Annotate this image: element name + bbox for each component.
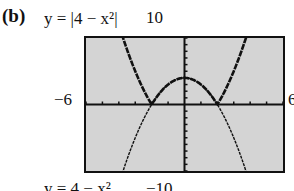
ymin-label: −10 [146,180,173,191]
plot-area [86,38,285,173]
xmin-label: −6 [54,91,72,108]
top-equation-label: y = |4 − x²| [44,10,118,27]
xmax-label: 6 [288,91,294,108]
ymax-label: 10 [146,9,163,26]
bottom-equation-label: y = 4 − x² [44,180,111,191]
graphing-calculator-screen [84,36,285,173]
part-label: (b) [2,6,25,25]
